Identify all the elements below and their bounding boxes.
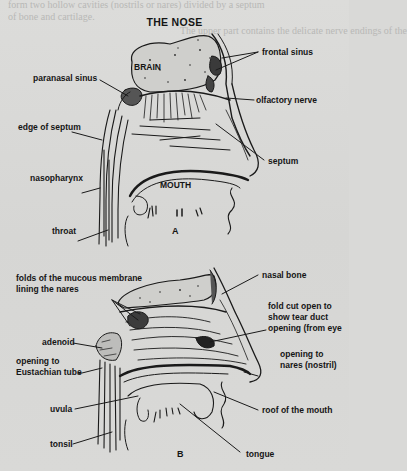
label-fold-cut-open: fold cut open to	[268, 301, 332, 311]
label-nasopharynx: nasopharynx	[30, 173, 83, 183]
label-mouth: MOUTH	[160, 180, 191, 190]
label-olfactory-nerve: olfactory nerve	[256, 95, 317, 105]
label-opening-eustachian-2: Eustachian tube	[16, 367, 82, 377]
label-edge-of-septum: edge of septum	[18, 122, 81, 132]
label-fold-cut-open-3: opening (from eye	[268, 323, 342, 333]
figure-b-caption: B	[177, 449, 184, 459]
label-fold-cut-open-2: show tear duct	[268, 312, 328, 322]
label-nasal-bone: nasal bone	[262, 270, 306, 280]
label-throat: throat	[52, 226, 76, 236]
label-brain: BRAIN	[134, 62, 161, 72]
label-opening-nares-2: nares (nostril)	[280, 360, 337, 370]
figure-a-caption: A	[172, 226, 179, 236]
label-septum: septum	[268, 156, 298, 166]
label-frontal-sinus: frontal sinus	[262, 47, 313, 57]
label-uvula: uvula	[50, 404, 72, 414]
label-tonsil: tonsil	[50, 439, 73, 449]
label-adenoid: adenoid	[42, 337, 75, 347]
label-folds-mucous-membrane-2: lining the nares	[16, 284, 79, 294]
label-roof-of-mouth: roof of the mouth	[262, 405, 332, 415]
label-opening-nares: opening to	[280, 349, 323, 359]
label-folds-mucous-membrane: folds of the mucous membrane	[16, 273, 142, 283]
label-tongue: tongue	[246, 449, 274, 459]
label-paranasal-sinus: paranasal sinus	[33, 73, 97, 83]
label-opening-eustachian: opening to	[16, 356, 59, 366]
